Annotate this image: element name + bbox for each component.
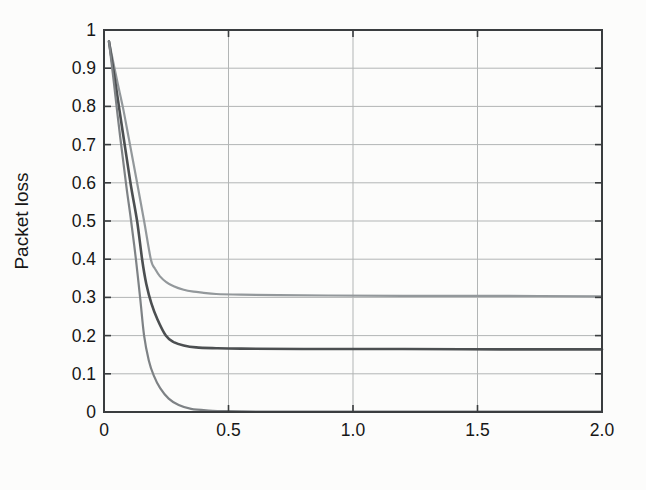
y-tick-label: 0.3 bbox=[72, 287, 96, 307]
x-tick-label: 0 bbox=[99, 420, 109, 440]
y-tick-label: 0.7 bbox=[72, 135, 96, 155]
x-tick-label: 1.0 bbox=[341, 420, 366, 440]
curve-k2 bbox=[109, 42, 602, 350]
y-tick-label: 0.8 bbox=[72, 96, 96, 116]
curve-k1 bbox=[109, 42, 602, 297]
x-tick-label: 0.5 bbox=[216, 420, 240, 440]
curve-k3 bbox=[109, 42, 602, 412]
y-tick-label: 1 bbox=[86, 20, 96, 40]
y-tick-label: 0.5 bbox=[72, 211, 96, 231]
y-tick-label: 0.6 bbox=[72, 173, 96, 193]
y-tick-label: 0.9 bbox=[72, 58, 96, 78]
chart-plot: 00.51.01.52.000.10.20.30.40.50.60.70.80.… bbox=[0, 0, 646, 490]
y-tick-label: 0.1 bbox=[72, 364, 96, 384]
y-tick-label: 0 bbox=[86, 402, 96, 422]
y-tick-label: 0.4 bbox=[72, 249, 97, 269]
x-tick-label: 1.5 bbox=[465, 420, 489, 440]
y-tick-label: 0.2 bbox=[72, 326, 96, 346]
scanned-figure: 00.51.01.52.000.10.20.30.40.50.60.70.80.… bbox=[0, 0, 646, 490]
y-axis-label: Packet loss bbox=[11, 172, 32, 269]
x-tick-label: 2.0 bbox=[590, 420, 615, 440]
